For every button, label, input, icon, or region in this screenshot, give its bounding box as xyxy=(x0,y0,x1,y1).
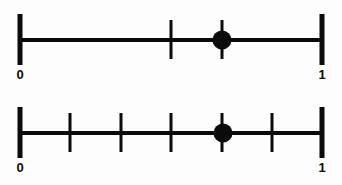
number-line-figure: 0 1 0 1 xyxy=(0,0,342,185)
axis-label-top-start: 0 xyxy=(16,68,23,81)
tick-bottom-start xyxy=(18,107,23,158)
axis-label-bottom-start: 0 xyxy=(16,161,23,174)
tick-top-start xyxy=(18,14,23,65)
tick-bottom-1 xyxy=(69,113,72,152)
tick-top-mid xyxy=(170,20,173,59)
axis-label-bottom-end: 1 xyxy=(318,161,325,174)
tick-bottom-3 xyxy=(170,113,173,152)
plotted-point-bottom xyxy=(214,124,233,143)
tick-bottom-2 xyxy=(120,113,123,152)
number-line-bottom: 0 1 xyxy=(0,92,342,185)
plotted-point-top xyxy=(213,31,232,50)
axis-label-top-end: 1 xyxy=(318,68,325,81)
tick-top-end xyxy=(320,14,325,65)
tick-bottom-5 xyxy=(271,113,274,152)
tick-bottom-end xyxy=(320,107,325,158)
number-line-top: 0 1 xyxy=(0,0,342,92)
